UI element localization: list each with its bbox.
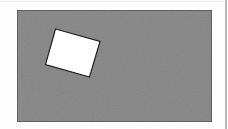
right-divider — [225, 0, 227, 129]
diagram-canvas — [0, 0, 228, 129]
diagram-figure — [0, 0, 228, 129]
gray-background-rectangle — [17, 10, 212, 122]
